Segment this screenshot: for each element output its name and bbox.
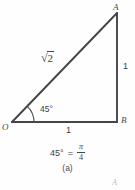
side-label-vertical: 1	[123, 62, 128, 71]
side-label-base: 1	[66, 126, 71, 135]
figure-caption: (a)	[0, 163, 135, 173]
equation-45-equals-pi-over-4: 45° = π 4	[0, 143, 135, 162]
fraction-numerator: π	[77, 143, 85, 152]
vertex-label-b: B	[121, 116, 127, 125]
next-figure-vertex-label-fragment: A	[112, 178, 117, 187]
radicand-value: 2	[47, 51, 55, 65]
angle-label-45: 45°	[40, 105, 53, 114]
vertex-label-a: A	[113, 3, 119, 12]
vertex-label-o: O	[2, 123, 9, 132]
triangle-side-hypotenuse	[12, 13, 117, 122]
angle-arc-45	[28, 107, 34, 122]
equation-equals-sign: =	[68, 148, 73, 158]
equation-angle-term: 45°	[50, 148, 64, 158]
side-label-hypotenuse-sqrt2: √2	[41, 51, 54, 65]
fraction-pi-over-4: π 4	[77, 143, 85, 162]
figure-45-45-90-triangle: A B O √2 1 1 45° 45° = π 4 (a) A	[0, 0, 135, 190]
fraction-denominator: 4	[77, 153, 85, 162]
